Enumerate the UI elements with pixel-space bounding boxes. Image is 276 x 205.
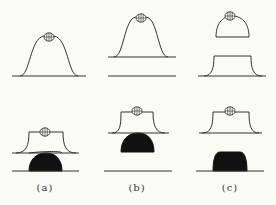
panel-b-bottom — [104, 107, 172, 171]
ball-icon — [44, 33, 54, 41]
panel-a-top — [12, 33, 86, 76]
panel-c-bottom — [196, 107, 264, 171]
ball-icon — [225, 107, 235, 115]
panel-c-top — [198, 12, 266, 76]
panel-label-c: (c) — [222, 182, 238, 193]
trapezoid-shape — [204, 56, 262, 76]
diagram — [0, 0, 276, 205]
ball-icon — [136, 14, 146, 22]
panel-b-top — [108, 14, 176, 76]
black-block — [213, 152, 247, 171]
ball-icon — [132, 107, 142, 115]
ball-icon — [225, 12, 235, 20]
black-block — [29, 153, 62, 171]
panel-label-b: (b) — [128, 182, 145, 193]
ball-icon — [40, 128, 50, 136]
panel-label-a: (a) — [37, 182, 54, 193]
bell-shape — [20, 36, 78, 76]
panel-a-bottom — [12, 128, 79, 171]
black-block — [121, 133, 154, 152]
bell-shape — [114, 17, 168, 57]
